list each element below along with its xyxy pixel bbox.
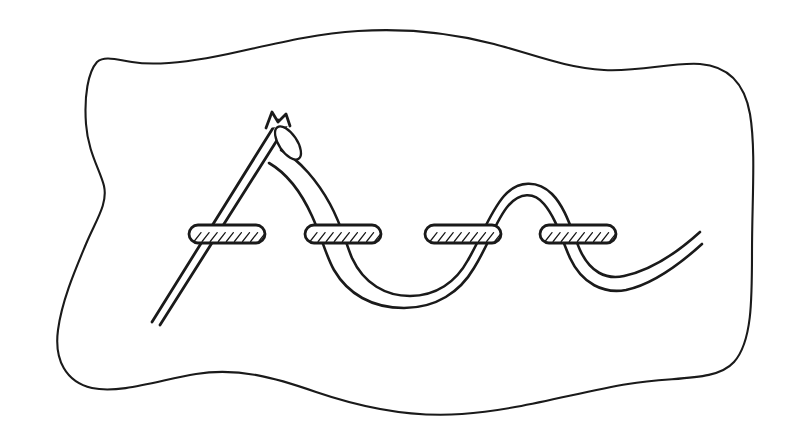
- stitch-bar: [540, 225, 617, 243]
- stitch-diagram-figure: [0, 0, 802, 446]
- fabric-outline: [57, 30, 753, 415]
- stitch-bar: [305, 225, 382, 243]
- fabric-group: [57, 30, 753, 415]
- stitch-bar: [189, 225, 266, 243]
- illustration-canvas: [0, 0, 802, 446]
- stitch-bar: [425, 225, 502, 243]
